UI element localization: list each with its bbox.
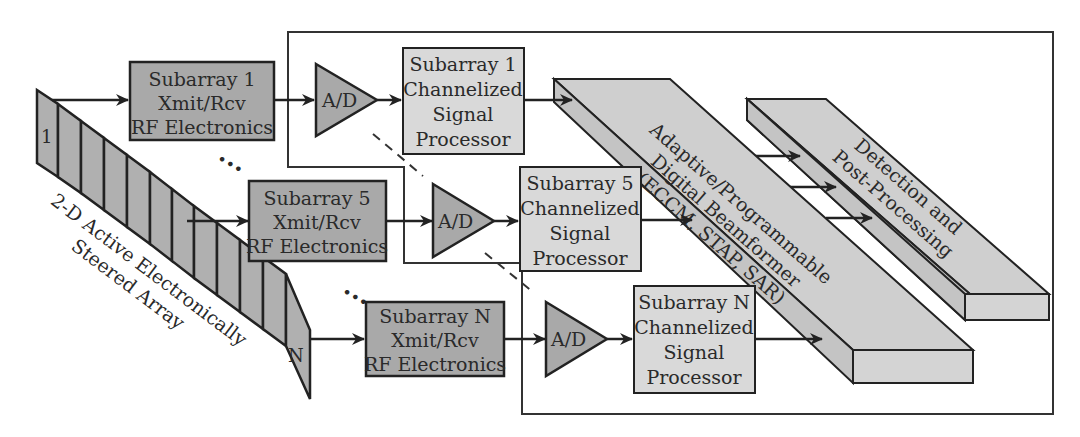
svg-text:Xmit/Rcv: Xmit/Rcv xyxy=(391,329,479,351)
svg-text:Channelized: Channelized xyxy=(403,78,522,100)
beamforming-diagram: Detection and Post-Processing Adaptive/P… xyxy=(0,0,1080,437)
svg-text:Subarray N: Subarray N xyxy=(638,291,750,313)
svg-text:Channelized: Channelized xyxy=(520,197,639,219)
adc-5: A/D xyxy=(433,184,494,257)
adc-1: A/D xyxy=(316,64,377,136)
svg-text:RF Electronics: RF Electronics xyxy=(364,353,506,375)
rf-module-5: Subarray 5 Xmit/Rcv RF Electronics xyxy=(246,181,388,261)
svg-text:A/D: A/D xyxy=(321,89,357,111)
signal-processor-1: Subarray 1 Channelized Signal Processor xyxy=(403,48,524,154)
rf-module-1: Subarray 1 Xmit/Rcv RF Electronics xyxy=(130,62,274,140)
svg-text:A/D: A/D xyxy=(437,210,473,232)
svg-text:Signal: Signal xyxy=(433,103,494,125)
svg-text:RF Electronics: RF Electronics xyxy=(246,235,388,257)
svg-text:Signal: Signal xyxy=(550,222,611,244)
signal-processor-5: Subarray 5 Channelized Signal Processor xyxy=(520,167,641,271)
svg-text:Signal: Signal xyxy=(664,341,725,363)
ellipsis-1: ••• xyxy=(213,149,247,180)
svg-text:Subarray 1: Subarray 1 xyxy=(409,53,516,75)
svg-text:Processor: Processor xyxy=(415,128,511,150)
svg-text:Xmit/Rcv: Xmit/Rcv xyxy=(158,92,246,114)
svg-text:RF Electronics: RF Electronics xyxy=(131,116,273,138)
svg-text:Subarray 5: Subarray 5 xyxy=(263,187,370,209)
svg-text:Xmit/Rcv: Xmit/Rcv xyxy=(273,211,361,233)
svg-text:A/D: A/D xyxy=(550,328,586,350)
signal-processor-n: Subarray N Channelized Signal Processor xyxy=(634,286,755,393)
array-element-1-label: 1 xyxy=(41,126,52,147)
svg-text:Subarray 5: Subarray 5 xyxy=(526,172,633,194)
rf-module-n: Subarray N Xmit/Rcv RF Electronics xyxy=(364,302,506,376)
svg-text:Channelized: Channelized xyxy=(634,316,753,338)
adc-n: A/D xyxy=(546,302,607,376)
svg-text:Subarray 1: Subarray 1 xyxy=(148,68,255,90)
array-element-n-label: N xyxy=(288,345,304,366)
svg-text:Processor: Processor xyxy=(646,366,742,388)
svg-text:Subarray N: Subarray N xyxy=(379,305,491,327)
svg-text:Processor: Processor xyxy=(532,247,628,269)
